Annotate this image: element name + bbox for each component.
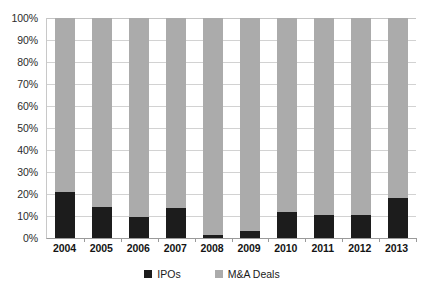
y-tick-label: 80% xyxy=(17,57,38,68)
y-tick-label: 100% xyxy=(12,13,38,24)
bar-segment-m-a-deals[interactable] xyxy=(277,18,297,212)
bar-segment-ipos[interactable] xyxy=(203,235,223,238)
bar-group[interactable] xyxy=(203,18,223,238)
y-tick-label: 30% xyxy=(17,167,38,178)
bar-segment-m-a-deals[interactable] xyxy=(166,18,186,208)
bar-group[interactable] xyxy=(277,18,297,238)
y-axis: 0%10%20%30%40%50%60%70%80%90%100% xyxy=(0,0,44,293)
bar-group[interactable] xyxy=(129,18,149,238)
y-tick-label: 90% xyxy=(17,35,38,46)
y-tick-label: 70% xyxy=(17,79,38,90)
bar-segment-m-a-deals[interactable] xyxy=(388,18,408,198)
x-tick-mark xyxy=(416,238,417,242)
bar-segment-m-a-deals[interactable] xyxy=(351,18,371,215)
legend-swatch-icon xyxy=(144,270,152,278)
bar-segment-ipos[interactable] xyxy=(388,198,408,238)
bar-segment-ipos[interactable] xyxy=(166,208,186,238)
x-tick-mark xyxy=(305,238,306,242)
y-tick-label: 0% xyxy=(23,233,38,244)
y-tick-label: 20% xyxy=(17,189,38,200)
bar-group[interactable] xyxy=(388,18,408,238)
x-tick-mark xyxy=(121,238,122,242)
x-tick-mark xyxy=(342,238,343,242)
bar-segment-m-a-deals[interactable] xyxy=(92,18,112,207)
y-tick-label: 40% xyxy=(17,145,38,156)
bar-group[interactable] xyxy=(314,18,334,238)
bar-segment-m-a-deals[interactable] xyxy=(129,18,149,217)
bar-group[interactable] xyxy=(55,18,75,238)
x-tick-mark xyxy=(232,238,233,242)
x-tick-mark xyxy=(158,238,159,242)
bar-group[interactable] xyxy=(92,18,112,238)
bar-segment-ipos[interactable] xyxy=(240,231,260,238)
y-tick-label: 60% xyxy=(17,101,38,112)
x-tick-mark xyxy=(268,238,269,242)
y-tick-label: 10% xyxy=(17,211,38,222)
x-tick-mark xyxy=(195,238,196,242)
bar-segment-ipos[interactable] xyxy=(351,215,371,238)
bar-group[interactable] xyxy=(166,18,186,238)
x-axis: 2004200520062007200820092010201120122013 xyxy=(46,243,415,261)
legend-label: M&A Deals xyxy=(228,269,280,280)
bar-group[interactable] xyxy=(351,18,371,238)
bar-segment-ipos[interactable] xyxy=(277,212,297,238)
bar-segment-m-a-deals[interactable] xyxy=(314,18,334,215)
bar-segment-ipos[interactable] xyxy=(92,207,112,238)
x-tick-mark xyxy=(379,238,380,242)
bar-segment-m-a-deals[interactable] xyxy=(203,18,223,235)
legend-swatch-icon xyxy=(215,270,223,278)
bars-layer xyxy=(47,18,416,238)
bar-segment-ipos[interactable] xyxy=(129,217,149,238)
legend-item[interactable]: IPOs xyxy=(144,269,180,280)
bar-segment-ipos[interactable] xyxy=(314,215,334,238)
x-tick-label: 2013 xyxy=(373,243,421,254)
y-tick-label: 50% xyxy=(17,123,38,134)
bar-segment-m-a-deals[interactable] xyxy=(240,18,260,231)
legend-label: IPOs xyxy=(157,269,180,280)
stacked-bar-chart: 0%10%20%30%40%50%60%70%80%90%100% 200420… xyxy=(0,0,424,293)
bar-segment-ipos[interactable] xyxy=(55,192,75,238)
x-tick-mark xyxy=(84,238,85,242)
chart-legend: IPOsM&A Deals xyxy=(0,269,424,280)
legend-item[interactable]: M&A Deals xyxy=(215,269,280,280)
bar-group[interactable] xyxy=(240,18,260,238)
plot-area xyxy=(46,18,416,239)
bar-segment-m-a-deals[interactable] xyxy=(55,18,75,192)
